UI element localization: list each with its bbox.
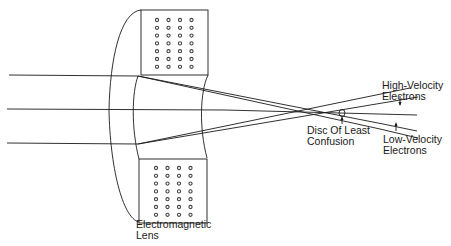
coil-winding-dot xyxy=(190,18,193,21)
coil-winding-dot xyxy=(167,50,170,53)
ray-top-extend xyxy=(383,124,417,131)
coil-winding-dot xyxy=(155,65,158,68)
low-velocity-arrowhead xyxy=(395,122,398,126)
label-line: High-Velocity xyxy=(382,80,443,91)
coil-winding-dot xyxy=(190,65,193,68)
coil-winding-dot xyxy=(166,166,169,169)
coil-winding-dot xyxy=(166,174,169,177)
coil-winding-dot xyxy=(190,34,193,37)
coil-winding-dot xyxy=(154,205,157,208)
label-line: Electrons xyxy=(382,91,443,102)
coil-winding-dot xyxy=(154,182,157,185)
coil-bottom xyxy=(139,159,207,223)
ray-bottom-high-velocity xyxy=(138,97,418,144)
ray-middle-incoming xyxy=(7,109,225,110)
coil-winding-dot xyxy=(190,57,193,60)
label-disc-of-least-confusion: Disc Of Least Confusion xyxy=(307,125,370,146)
coil-winding-dot xyxy=(178,57,181,60)
coil-winding-dot xyxy=(167,65,170,68)
label-electromagnetic-lens: Electromagnetic Lens xyxy=(136,219,211,240)
coil-winding-dot xyxy=(154,174,157,177)
coil-winding-dot xyxy=(189,205,192,208)
coil-winding-dot xyxy=(155,50,158,53)
coil-winding-dot xyxy=(155,18,158,21)
coil-winding-dot xyxy=(154,166,157,169)
coil-winding-dot xyxy=(189,166,192,169)
coil-winding-dot xyxy=(189,213,192,216)
ray-top-low-velocity xyxy=(138,76,380,129)
lens-bore-left-arc xyxy=(133,76,139,159)
coil-winding-dot xyxy=(189,174,192,177)
coil-winding-dot xyxy=(155,57,158,60)
coil-winding-dot xyxy=(178,26,181,29)
coil-winding-dot xyxy=(190,26,193,29)
coil-winding-dot xyxy=(155,42,158,45)
high-velocity-arrowhead xyxy=(399,102,402,106)
label-line: Electrons xyxy=(383,145,442,156)
coil-winding-dot xyxy=(177,182,180,185)
coil-winding-dot xyxy=(166,205,169,208)
coil-winding-dot xyxy=(166,190,169,193)
coil-winding-dot xyxy=(177,190,180,193)
coil-winding-dot xyxy=(154,190,157,193)
ray-top-incoming xyxy=(9,75,138,76)
coil-top-windings xyxy=(155,18,193,68)
coil-winding-dot xyxy=(189,198,192,201)
coil-winding-dot xyxy=(189,182,192,185)
ray-bottom-incoming xyxy=(7,143,138,144)
coil-winding-dot xyxy=(178,65,181,68)
label-low-velocity-electrons: Low-Velocity Electrons xyxy=(383,134,442,155)
coil-winding-dot xyxy=(166,213,169,216)
coil-winding-dot xyxy=(167,57,170,60)
coil-winding-dot xyxy=(178,34,181,37)
coil-winding-dot xyxy=(178,18,181,21)
coil-winding-dot xyxy=(167,18,170,21)
coil-winding-dot xyxy=(177,213,180,216)
coil-winding-dot xyxy=(154,198,157,201)
coil-winding-dot xyxy=(167,26,170,29)
coil-winding-dot xyxy=(155,26,158,29)
label-line: Electromagnetic xyxy=(136,219,211,230)
label-line: Lens xyxy=(136,230,211,241)
coil-winding-dot xyxy=(177,174,180,177)
coil-winding-dot xyxy=(178,42,181,45)
coil-winding-dot xyxy=(189,190,192,193)
coil-winding-dot xyxy=(177,205,180,208)
label-high-velocity-electrons: High-Velocity Electrons xyxy=(382,80,443,101)
coil-winding-dot xyxy=(177,166,180,169)
coil-winding-dot xyxy=(154,213,157,216)
coil-bottom-windings xyxy=(154,166,192,216)
coil-winding-dot xyxy=(166,182,169,185)
coil-winding-dot xyxy=(166,198,169,201)
coil-winding-dot xyxy=(190,50,193,53)
lens-pole-right-arc xyxy=(201,75,208,158)
lens-diagram xyxy=(0,0,451,246)
label-line: Disc Of Least xyxy=(307,125,370,136)
coil-winding-dot xyxy=(155,34,158,37)
lens-housing-outer-arc xyxy=(109,10,141,222)
ray-middle-outgoing xyxy=(225,110,417,115)
coil-winding-dot xyxy=(177,198,180,201)
coil-winding-dot xyxy=(167,34,170,37)
ray-top-high-velocity xyxy=(138,76,383,124)
label-line: Low-Velocity xyxy=(383,134,442,145)
coil-winding-dot xyxy=(178,50,181,53)
label-line: Confusion xyxy=(307,136,370,147)
coil-top xyxy=(141,10,208,75)
coil-winding-dot xyxy=(167,42,170,45)
coil-winding-dot xyxy=(190,42,193,45)
